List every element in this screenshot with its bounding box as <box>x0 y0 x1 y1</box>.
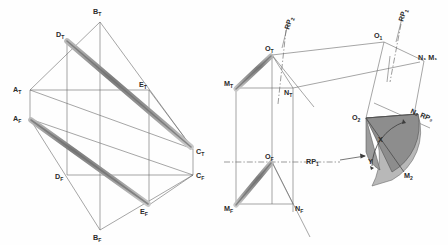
label-OT: OT <box>265 44 275 54</box>
figure-left: AT BT CT DT ET AF BF CF DF EF <box>13 7 205 243</box>
edge-AT-BT <box>30 22 100 90</box>
label-rp1: RP1 <box>306 157 319 167</box>
label-O2: O2 <box>352 113 361 123</box>
arrow-arc-bottom <box>370 166 374 170</box>
edge-OF-ray <box>272 162 310 237</box>
label-MF: MF <box>224 204 233 214</box>
label-AF: AF <box>13 114 21 124</box>
edge-OT-O1 <box>272 42 384 55</box>
label-DF: DF <box>55 172 63 182</box>
label-rp1-aux: RP1 <box>396 7 410 22</box>
technical-drawing-canvas: AT BT CT DT ET AF BF CF DF EF <box>0 0 448 245</box>
edge-OT-NT <box>272 55 293 88</box>
label-ET: ET <box>139 80 148 90</box>
edge-EF-CF <box>149 175 193 205</box>
rp1-tick-aux <box>387 56 390 82</box>
drawing-sheet: AT BT CT DT ET AF BF CF DF EF <box>0 0 448 245</box>
figure-right: OT MT NT OF MF NF O1 N₁ M₁ O2 M2 X Y RP1… <box>224 7 437 237</box>
label-MT: MT <box>224 79 234 89</box>
band-right-top-core <box>236 56 271 89</box>
rp1-line-aux <box>390 24 401 82</box>
label-angle-y: Y <box>368 157 373 166</box>
label-CF: CF <box>196 171 204 181</box>
label-NF: NF <box>295 204 303 214</box>
sector-pointer-head <box>360 153 366 158</box>
label-NT: NT <box>284 88 293 98</box>
band-top-view-core <box>67 41 191 147</box>
band-front-view-core <box>31 120 148 204</box>
band-right-front-core <box>236 163 271 205</box>
label-CT: CT <box>196 147 205 157</box>
label-BT: BT <box>93 7 102 17</box>
label-O1: O1 <box>374 31 383 41</box>
aux1-O1-O2 <box>366 42 384 118</box>
label-BF: BF <box>93 233 101 243</box>
edge-MT-NT-ext <box>293 62 420 88</box>
label-angle-x: X <box>378 135 383 144</box>
label-AT: AT <box>13 85 22 95</box>
edge-AF-BF <box>30 119 100 230</box>
label-rp2-top: RP2 <box>282 15 296 30</box>
label-OF: OF <box>265 152 274 162</box>
label-M2: M2 <box>404 171 413 181</box>
label-N1M1: N₁ M₁ <box>418 53 437 62</box>
label-DT: DT <box>56 30 65 40</box>
reference-plane-lines <box>224 24 401 162</box>
label-EF: EF <box>140 207 148 217</box>
